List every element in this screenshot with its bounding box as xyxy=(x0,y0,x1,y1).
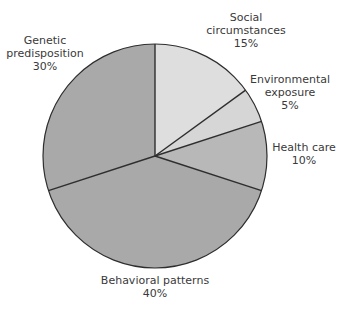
label-environmental-exposure: Environmental exposure 5% xyxy=(240,73,340,112)
label-health-care: Health care 10% xyxy=(266,141,342,167)
label-behavioral-patterns: Behavioral patterns 40% xyxy=(90,274,220,300)
label-social-circumstances: Social circumstances 15% xyxy=(196,11,296,50)
label-genetic-predisposition: Genetic predisposition 30% xyxy=(2,34,88,73)
